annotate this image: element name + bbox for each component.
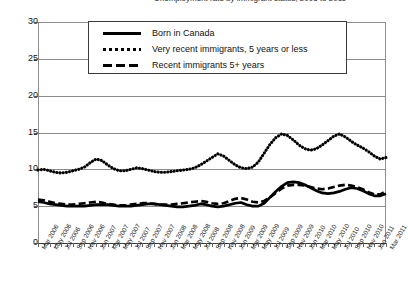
series-path-recent-immigrants-5-years xyxy=(38,185,386,206)
dashed-line-key xyxy=(99,59,145,71)
dotted-line-key xyxy=(99,43,145,55)
legend-item-born-in-canada: Born in Canada xyxy=(99,25,215,40)
legend-label: Born in Canada xyxy=(152,28,215,38)
solid-line-key xyxy=(99,27,145,39)
chart-legend: Born in Canada Very recent immigrants, 5… xyxy=(88,21,347,74)
legend-item-very-recent-immigrants: Very recent immigrants, 5 years or less xyxy=(99,41,308,56)
legend-item-recent-immigrants: Recent immigrants 5+ years xyxy=(99,57,264,72)
legend-label: Recent immigrants 5+ years xyxy=(152,60,264,70)
series-path-very-recent-immigrants-5-years-or-less xyxy=(38,134,386,173)
chart-title-clipped: Unemployment rate by immigrant status, 2… xyxy=(120,0,380,4)
legend-label: Very recent immigrants, 5 years or less xyxy=(152,44,308,54)
x-axis-label-group: Mar 2006May 2006Jul 2006Sep 2006Nov 2006… xyxy=(0,247,401,294)
